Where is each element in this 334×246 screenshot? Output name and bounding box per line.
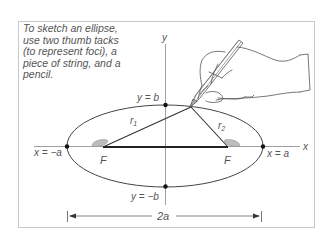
vertex-bottom	[163, 184, 167, 188]
top-vertex-label: y = b	[136, 92, 159, 103]
r1-label: r1	[130, 115, 137, 127]
left-vertex-label: x = −a	[33, 147, 62, 158]
caption-line: pencil.	[23, 69, 163, 81]
string-r1	[103, 107, 191, 147]
bottom-vertex-label: y = −b	[130, 191, 159, 202]
vertex-left	[65, 144, 69, 148]
ellipse-diagram: y x y = b y = −b x = −a x = a F F r1 r2 …	[0, 0, 334, 246]
x-axis-label: x	[302, 141, 309, 152]
focus-left-label: F	[100, 154, 108, 166]
vertex-top	[163, 103, 167, 107]
hand-pencil-icon	[190, 40, 310, 107]
major-axis-label: 2a	[156, 210, 169, 222]
caption-line: To sketch an ellipse,	[23, 23, 163, 35]
vertex-right	[261, 144, 265, 148]
instruction-caption: To sketch an ellipse, use two thumb tack…	[23, 23, 163, 81]
right-vertex-label: x = a	[266, 148, 289, 159]
r2-label: r2	[218, 120, 225, 132]
focus-right-label: F	[224, 154, 232, 166]
